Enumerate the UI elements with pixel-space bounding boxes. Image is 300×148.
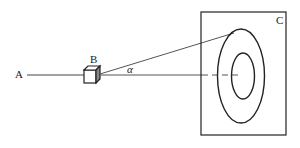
- label-b: B: [90, 53, 97, 65]
- outer-ellipse: [218, 29, 265, 123]
- label-c: C: [276, 14, 283, 26]
- screen-c: [201, 12, 286, 135]
- diagram-canvas: A B α C: [0, 0, 300, 148]
- cube-b-icon: [84, 66, 100, 83]
- label-a: A: [15, 68, 23, 80]
- inner-ellipse: [232, 53, 255, 99]
- slanted-ray: [100, 33, 234, 74]
- label-alpha: α: [127, 63, 133, 75]
